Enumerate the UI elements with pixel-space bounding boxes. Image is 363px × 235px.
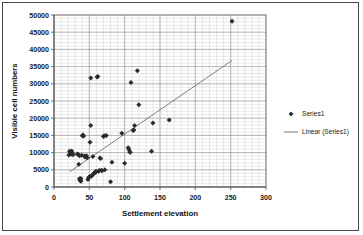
y-tick-label: 35000 [29, 63, 49, 71]
y-tick-label: 25000 [29, 98, 49, 106]
data-point [129, 80, 134, 85]
y-tick-label: 20000 [29, 115, 49, 123]
y-tick-label: 30000 [29, 80, 49, 88]
y-tick-label: 10000 [29, 149, 49, 157]
legend-marker-series1 [289, 112, 294, 117]
y-axis-tick-labels: 0500010000150002000025000300003500040000… [29, 12, 49, 192]
chart-legend: Series1Linear (Series1) [284, 110, 349, 136]
axis-tick-marks [51, 15, 266, 190]
y-tick-label: 50000 [29, 12, 49, 20]
x-tick-label: 300 [260, 194, 272, 202]
data-point [136, 102, 141, 107]
x-axis-tick-labels: 050100150200250300 [52, 194, 272, 202]
y-tick-label: 15000 [29, 132, 49, 140]
chart-container: 0500010000150002000025000300003500040000… [3, 3, 358, 230]
x-tick-label: 0 [52, 194, 56, 202]
data-point [150, 121, 155, 126]
y-tick-label: 40000 [29, 46, 49, 54]
data-point [76, 162, 81, 167]
data-point [88, 140, 93, 145]
x-axis-title: Settlement elevation [122, 209, 198, 218]
data-point [149, 149, 154, 154]
x-tick-label: 50 [85, 194, 93, 202]
major-gridlines [54, 15, 266, 187]
x-tick-label: 100 [119, 194, 131, 202]
data-point [88, 75, 93, 80]
data-point [109, 160, 114, 165]
data-point [230, 19, 235, 24]
data-point [135, 68, 140, 73]
scatter-plot: 0500010000150002000025000300003500040000… [3, 3, 360, 232]
data-point [132, 123, 137, 128]
x-tick-label: 200 [189, 194, 201, 202]
legend-label: Series1 [302, 110, 325, 117]
y-tick-label: 45000 [29, 29, 49, 37]
x-tick-label: 250 [225, 194, 237, 202]
x-tick-label: 150 [154, 194, 166, 202]
legend-label: Linear (Series1) [302, 128, 349, 136]
chart-frame: 0500010000150002000025000300003500040000… [2, 2, 359, 231]
y-axis-title: Visible cell numbers [10, 63, 19, 139]
data-point [122, 161, 127, 166]
data-point [88, 123, 93, 128]
y-tick-label: 0 [45, 184, 49, 192]
y-tick-label: 5000 [33, 166, 49, 174]
